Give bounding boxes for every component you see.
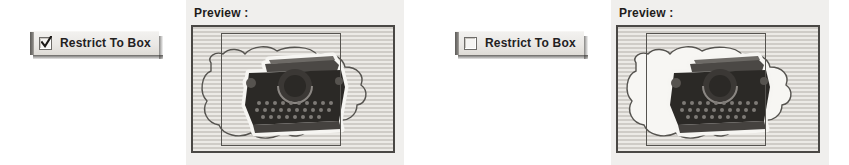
button-shadow	[159, 36, 163, 59]
preview-frame	[616, 25, 820, 153]
restrict-to-box-label: Restrict To Box	[60, 37, 151, 50]
variant-restrict-off: Restrict To Box Preview :	[425, 0, 849, 165]
preview-title: Preview :	[619, 6, 674, 20]
preview-artwork	[193, 27, 393, 151]
typewriter-icon	[245, 56, 345, 133]
preview-panel: Preview :	[186, 0, 404, 165]
preview-artwork	[618, 27, 818, 151]
preview-panel: Preview :	[611, 0, 829, 165]
button-shadow	[584, 36, 588, 59]
restrict-to-box-button[interactable]: Restrict To Box	[30, 31, 159, 55]
preview-frame	[191, 25, 395, 153]
restrict-to-box-label: Restrict To Box	[485, 37, 576, 50]
restrict-to-box-checkbox[interactable]	[39, 37, 52, 50]
restrict-to-box-button[interactable]: Restrict To Box	[455, 31, 584, 55]
variant-restrict-on: Restrict To Box Preview :	[0, 0, 424, 165]
preview-title: Preview :	[194, 6, 249, 20]
checkmark-icon	[41, 36, 52, 49]
restrict-to-box-checkbox[interactable]	[464, 37, 477, 50]
